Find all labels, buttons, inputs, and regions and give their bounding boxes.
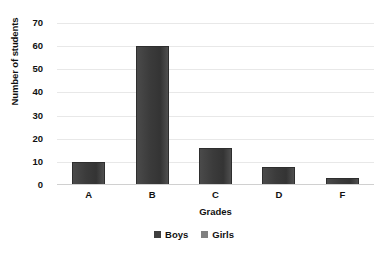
gridline xyxy=(57,69,374,70)
y-tick-label: 30 xyxy=(0,111,50,121)
bar xyxy=(72,162,105,185)
y-tick-label: 0 xyxy=(0,180,50,190)
y-tick-label: 40 xyxy=(0,88,50,98)
bar xyxy=(199,148,232,185)
y-tick-label: 50 xyxy=(0,65,50,75)
plot-area xyxy=(57,23,374,185)
y-tick-label: 20 xyxy=(0,134,50,144)
x-tick-label: D xyxy=(275,189,282,200)
legend-entry[interactable]: Girls xyxy=(201,230,234,240)
y-tick-label: 60 xyxy=(0,41,50,51)
legend-swatch-icon xyxy=(201,231,208,238)
gridline xyxy=(57,46,374,47)
x-tick-label: B xyxy=(149,189,156,200)
gridline xyxy=(57,139,374,140)
bar xyxy=(136,46,169,185)
legend-label: Girls xyxy=(212,230,234,240)
gridline xyxy=(57,23,374,24)
bar xyxy=(262,167,295,186)
x-tick-label: F xyxy=(339,189,345,200)
legend-label: Boys xyxy=(165,230,188,240)
gridline xyxy=(57,116,374,117)
gridline xyxy=(57,92,374,93)
chart-legend: BoysGirls xyxy=(0,230,388,240)
x-tick-label: A xyxy=(85,189,92,200)
legend-swatch-icon xyxy=(154,231,161,238)
x-axis-title: Grades xyxy=(57,206,374,217)
y-tick-label: 70 xyxy=(0,18,50,28)
y-axis-tick-labels: 706050403020100 xyxy=(0,23,50,185)
x-axis-line xyxy=(57,184,374,185)
x-axis-tick-labels: ABCDF xyxy=(57,189,374,203)
legend-entry[interactable]: Boys xyxy=(154,230,188,240)
x-tick-label: C xyxy=(212,189,219,200)
y-tick-label: 10 xyxy=(0,157,50,167)
bar-chart: Number of students 706050403020100 ABCDF… xyxy=(0,0,388,258)
